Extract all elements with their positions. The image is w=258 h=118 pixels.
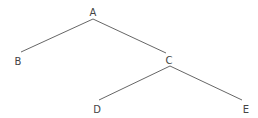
edge-c-d bbox=[99, 66, 170, 100]
node-a-label: A bbox=[90, 7, 97, 18]
edge-a-b bbox=[21, 19, 93, 52]
edge-a-c bbox=[93, 19, 166, 53]
node-e-label: E bbox=[243, 104, 249, 115]
node-c-label: C bbox=[166, 55, 173, 66]
edge-c-e bbox=[170, 66, 242, 100]
node-b-label: B bbox=[15, 56, 22, 67]
edges bbox=[21, 19, 242, 100]
nodes: A B C D E bbox=[15, 7, 250, 115]
tree-diagram: A B C D E bbox=[0, 0, 258, 118]
node-d-label: D bbox=[93, 104, 101, 115]
